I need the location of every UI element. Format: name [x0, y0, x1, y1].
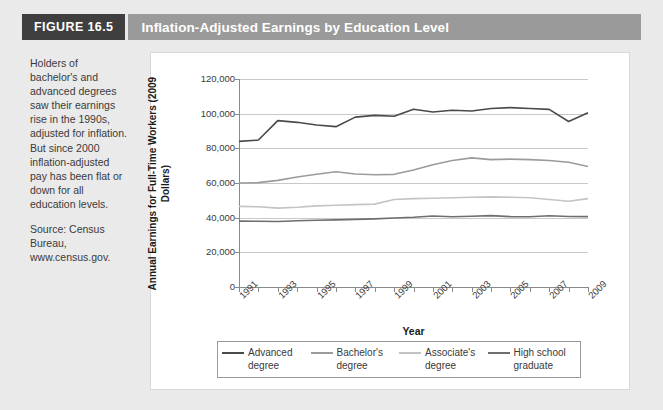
legend-label: Associate's degree [425, 347, 475, 372]
caption-body: Holders of bachelor's and advanced degre… [30, 56, 128, 211]
chart-panel: Annual Earnings for Full-Time Workers (2… [150, 52, 630, 390]
series-layer [239, 79, 590, 289]
y-tick-label: 80,000 [175, 142, 235, 153]
legend-label: Bachelor's degree [337, 347, 383, 372]
x-axis-title: Year [239, 325, 588, 337]
y-tick-label: 20,000 [175, 246, 235, 257]
legend-item[interactable]: Advanced degree [222, 347, 311, 372]
figure-header: FIGURE 16.5 Inflation-Adjusted Earnings … [22, 14, 641, 40]
legend-swatch [399, 352, 421, 354]
chart-legend: Advanced degreeBachelor's degreeAssociat… [217, 341, 581, 378]
figure-title: Inflation-Adjusted Earnings by Education… [125, 14, 641, 40]
series-line [239, 158, 588, 183]
legend-item[interactable]: High school graduate [488, 347, 577, 372]
plot-area: 020,00040,00060,00080,000100,000120,0001… [239, 79, 588, 287]
y-tick-label: 0 [175, 281, 235, 292]
legend-swatch [311, 352, 333, 354]
legend-item[interactable]: Bachelor's degree [311, 347, 400, 372]
legend-item[interactable]: Associate's degree [399, 347, 488, 372]
legend-swatch [488, 352, 510, 354]
y-axis-title: Annual Earnings for Full-Time Workers (2… [147, 59, 172, 309]
legend-swatch [222, 352, 244, 354]
caption-block: Holders of bachelor's and advanced degre… [30, 56, 128, 264]
figure-number-tag: FIGURE 16.5 [22, 14, 125, 40]
series-line [239, 216, 588, 222]
y-tick-label: 120,000 [175, 73, 235, 84]
figure-container: FIGURE 16.5 Inflation-Adjusted Earnings … [0, 0, 663, 410]
legend-label: Advanced degree [248, 347, 292, 372]
y-tick-label: 60,000 [175, 177, 235, 188]
caption-source: Source: Census Bureau, www.census.gov. [30, 222, 128, 264]
series-line [239, 108, 588, 142]
y-tick-label: 40,000 [175, 212, 235, 223]
y-tick-label: 100,000 [175, 108, 235, 119]
series-line [239, 197, 588, 208]
legend-label: High school graduate [514, 347, 566, 372]
